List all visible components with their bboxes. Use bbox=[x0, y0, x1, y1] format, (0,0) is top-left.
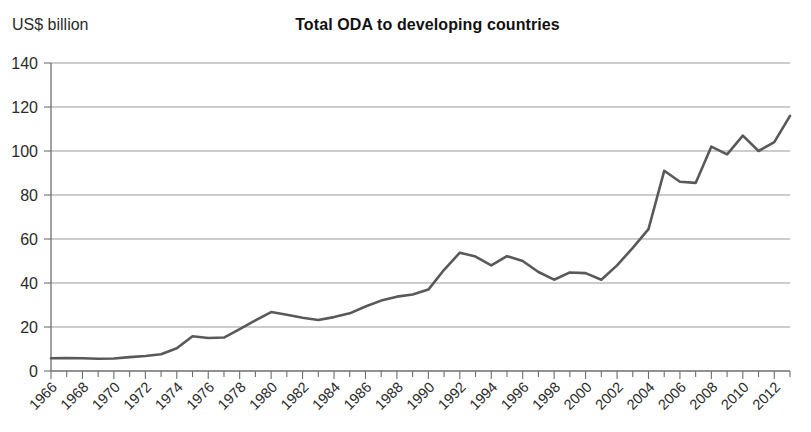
y-tick-label: 40 bbox=[20, 275, 38, 292]
y-tick-labels-group: 020406080100120140 bbox=[11, 55, 38, 380]
x-tick-label: 1976 bbox=[183, 379, 217, 413]
x-tick-label: 1970 bbox=[89, 379, 123, 413]
x-tick-labels-group: 1966196819701972197419761978198019821984… bbox=[26, 379, 783, 413]
axis-lines-group bbox=[51, 63, 790, 371]
x-tick-label: 2012 bbox=[749, 379, 783, 413]
x-tick-label: 1974 bbox=[152, 379, 186, 413]
x-tick-label: 2010 bbox=[718, 379, 752, 413]
y-tick-label: 0 bbox=[29, 363, 38, 380]
x-tick-label: 1982 bbox=[278, 379, 312, 413]
x-tick-label: 2002 bbox=[592, 379, 626, 413]
x-tick-label: 1984 bbox=[309, 379, 343, 413]
x-tick-label: 1992 bbox=[435, 379, 469, 413]
x-tick-label: 1998 bbox=[529, 379, 563, 413]
x-tick-label: 1968 bbox=[57, 379, 91, 413]
series-line-0 bbox=[51, 116, 790, 359]
y-tick-label: 140 bbox=[11, 55, 38, 72]
x-tick-label: 2006 bbox=[655, 379, 689, 413]
y-tick-label: 60 bbox=[20, 231, 38, 248]
y-tick-label: 80 bbox=[20, 187, 38, 204]
x-tick-label: 1990 bbox=[403, 379, 437, 413]
line-chart-plot: 020406080100120140 196619681970197219741… bbox=[0, 0, 811, 432]
x-tick-label: 1986 bbox=[340, 379, 374, 413]
chart-container: US$ billion Total ODA to developing coun… bbox=[0, 0, 811, 432]
x-tick-label: 1980 bbox=[246, 379, 280, 413]
x-tick-label: 1994 bbox=[466, 379, 500, 413]
y-tick-label: 120 bbox=[11, 99, 38, 116]
x-tick-label: 2000 bbox=[561, 379, 595, 413]
x-tick-marks-group bbox=[51, 371, 790, 379]
data-series-group bbox=[51, 116, 790, 359]
x-tick-label: 1966 bbox=[26, 379, 60, 413]
y-tick-label: 20 bbox=[20, 319, 38, 336]
y-tick-label: 100 bbox=[11, 143, 38, 160]
x-tick-label: 1978 bbox=[215, 379, 249, 413]
gridlines-group bbox=[44, 63, 790, 371]
x-tick-label: 1972 bbox=[120, 379, 154, 413]
x-tick-label: 1988 bbox=[372, 379, 406, 413]
x-tick-label: 2004 bbox=[623, 379, 657, 413]
x-tick-label: 1996 bbox=[498, 379, 532, 413]
x-tick-label: 2008 bbox=[686, 379, 720, 413]
